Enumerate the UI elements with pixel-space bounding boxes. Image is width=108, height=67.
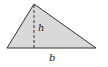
- height-label: h: [38, 22, 44, 33]
- triangle-diagram: h b: [0, 0, 108, 67]
- base-label: b: [49, 52, 55, 63]
- triangle: [7, 4, 96, 48]
